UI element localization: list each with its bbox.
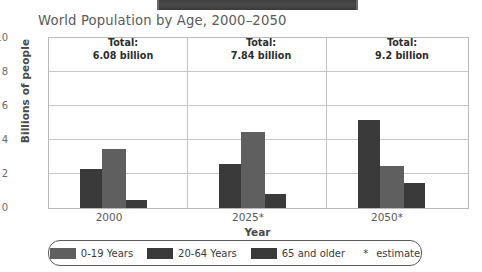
total-caption: Total: [337, 37, 467, 50]
bar-2050-65plus [404, 183, 425, 209]
x-tick-2050: 2050* [342, 211, 432, 223]
y-tick-4: 4 [0, 134, 8, 145]
bar-2000-0-19 [102, 149, 126, 208]
y-tick-2: 2 [0, 168, 8, 179]
y-axis-title: Billions of people [19, 21, 31, 161]
y-tick-8: 8 [0, 66, 8, 77]
x-tick-2000: 2000 [64, 211, 154, 223]
bar-2025-20-64 [219, 164, 241, 208]
chart-legend: 0-19 Years 20-64 Years 65 and older *est… [48, 240, 422, 266]
y-tick-6: 6 [0, 100, 8, 111]
total-amount: 7.84 billion [196, 50, 326, 63]
bar-2050-20-64 [358, 120, 380, 208]
total-caption: Total: [58, 37, 188, 50]
total-amount: 6.08 billion [58, 50, 188, 63]
total-annotation-2000: Total: 6.08 billion [58, 37, 188, 62]
legend-item-65plus: 65 and older [251, 248, 345, 259]
bar-2025-65plus [265, 194, 286, 209]
scan-artifact-strip [157, 0, 358, 10]
estimate-text: estimate [376, 248, 420, 259]
estimate-marker: * [363, 248, 368, 259]
y-tick-0: 0 [0, 202, 8, 213]
legend-label-0-19: 0-19 Years [81, 248, 133, 259]
x-tick-2025: 2025* [203, 211, 293, 223]
legend-label-20-64: 20-64 Years [178, 248, 237, 259]
gridline-8 [49, 71, 468, 72]
gridline-6 [49, 105, 468, 106]
total-annotation-2050: Total: 9.2 billion [337, 37, 467, 62]
legend-item-0-19: 0-19 Years [50, 248, 133, 259]
legend-swatch-icon-0-19 [50, 248, 76, 259]
bar-2050-0-19 [380, 166, 404, 209]
plot-area [48, 37, 469, 209]
chart-title: World Population by Age, 2000–2050 [38, 13, 287, 28]
bar-2000-20-64 [80, 169, 102, 208]
total-amount: 9.2 billion [337, 50, 467, 63]
group-divider-2 [326, 38, 327, 208]
legend-swatch-icon-20-64 [147, 248, 173, 259]
x-axis-title: Year [48, 226, 467, 238]
legend-label-65plus: 65 and older [282, 248, 345, 259]
total-caption: Total: [196, 37, 326, 50]
bar-2000-65plus [126, 200, 147, 208]
y-tick-10: 10 [0, 32, 8, 43]
total-annotation-2025: Total: 7.84 billion [196, 37, 326, 62]
group-divider-1 [187, 38, 188, 208]
legend-swatch-icon-65plus [251, 248, 277, 259]
legend-item-20-64: 20-64 Years [147, 248, 237, 259]
bar-2025-0-19 [241, 132, 265, 209]
legend-estimate-note: *estimate [363, 248, 420, 259]
